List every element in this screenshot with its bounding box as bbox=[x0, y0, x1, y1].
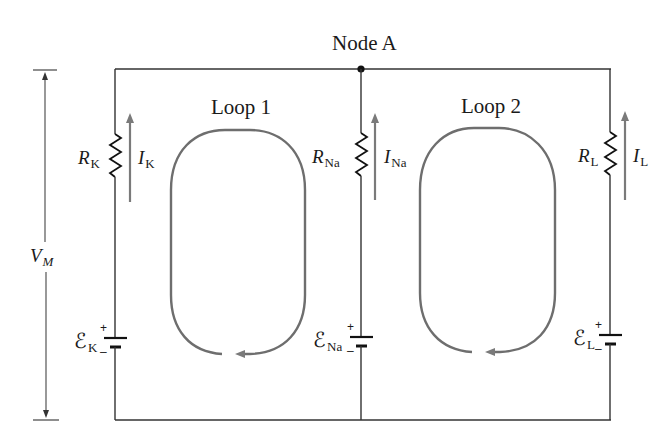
emf-k-plus-sign: + bbox=[100, 322, 107, 334]
resistor-k-icon bbox=[110, 134, 121, 177]
resistor-k-label: RK bbox=[78, 148, 100, 167]
loop-1-label: Loop 1 bbox=[211, 97, 271, 118]
battery-k-icon bbox=[104, 338, 127, 347]
loop-1-arrow-icon bbox=[171, 130, 305, 354]
current-na-subscript: Na bbox=[391, 155, 406, 170]
emf-l-minus-sign: – bbox=[595, 343, 602, 355]
current-k-label: IK bbox=[138, 148, 155, 167]
current-k-symbol: I bbox=[138, 147, 144, 168]
emf-k-minus-sign: – bbox=[100, 346, 107, 358]
vm-subscript: M bbox=[43, 254, 54, 269]
resistor-k-subscript: K bbox=[91, 156, 100, 171]
emf-na-minus-sign: – bbox=[347, 345, 354, 357]
emf-na-plus-sign: + bbox=[347, 321, 354, 333]
current-na-label: INa bbox=[384, 147, 407, 166]
emf-l-symbol: ℰ bbox=[573, 326, 586, 350]
vm-symbol: V bbox=[30, 245, 42, 266]
resistor-na-icon bbox=[356, 133, 367, 176]
resistor-k-symbol: R bbox=[78, 147, 90, 168]
emf-k-subscript: K bbox=[88, 340, 97, 355]
emf-na-label: ℰNa bbox=[313, 330, 342, 351]
emf-l-plus-sign: + bbox=[595, 319, 602, 331]
current-l-label: IL bbox=[633, 146, 648, 165]
resistor-na-symbol: R bbox=[312, 146, 324, 167]
emf-k-label: ℰK bbox=[74, 331, 97, 352]
loop-2-label: Loop 2 bbox=[461, 96, 521, 117]
battery-l-icon bbox=[599, 335, 622, 344]
resistor-l-subscript: L bbox=[591, 154, 599, 169]
current-l-symbol: I bbox=[633, 145, 639, 166]
emf-l-label: ℰL bbox=[573, 328, 595, 349]
resistor-l-label: RL bbox=[578, 146, 599, 165]
branch-k bbox=[104, 69, 130, 420]
circuit-diagram: Node A Loop 1 Loop 2 VM RK RNa RL IK INa… bbox=[0, 0, 664, 439]
resistor-na-subscript: Na bbox=[325, 155, 340, 170]
circuit-svg bbox=[0, 0, 664, 439]
current-l-subscript: L bbox=[640, 154, 648, 169]
current-na-symbol: I bbox=[384, 146, 390, 167]
resistor-l-icon bbox=[605, 132, 616, 175]
resistor-na-label: RNa bbox=[312, 147, 340, 166]
current-k-subscript: K bbox=[145, 156, 154, 171]
branch-na bbox=[350, 69, 375, 420]
node-a-label: Node A bbox=[332, 33, 397, 54]
loop-2-arrow-icon bbox=[420, 128, 555, 352]
emf-k-symbol: ℰ bbox=[74, 329, 87, 353]
branch-l bbox=[599, 69, 625, 420]
emf-l-subscript: L bbox=[587, 337, 595, 352]
emf-na-subscript: Na bbox=[327, 339, 342, 354]
resistor-l-symbol: R bbox=[578, 145, 590, 166]
emf-na-symbol: ℰ bbox=[313, 328, 326, 352]
vm-label: VM bbox=[30, 246, 53, 265]
